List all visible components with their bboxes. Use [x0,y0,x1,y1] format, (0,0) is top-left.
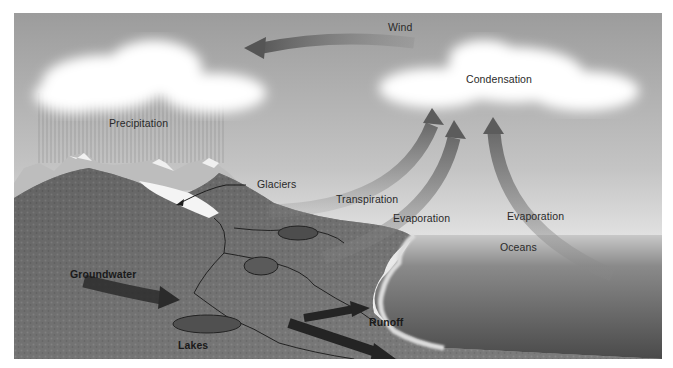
oceans-label: Oceans [500,241,537,253]
diagram-artwork [14,13,662,359]
condensation-label: Condensation [466,73,532,85]
water-cycle-diagram: Wind Condensation Precipitation Glaciers… [14,13,662,359]
evaporation-ocean-label: Evaporation [507,210,564,222]
wind-label: Wind [388,21,412,33]
runoff-label: Runoff [369,316,403,328]
glaciers-label: Glaciers [257,178,296,190]
groundwater-label: Groundwater [70,268,136,280]
evaporation-land-label: Evaporation [393,212,450,224]
lakes-label: Lakes [178,339,208,351]
precipitation-label: Precipitation [109,117,168,129]
transpiration-label: Transpiration [336,193,398,205]
